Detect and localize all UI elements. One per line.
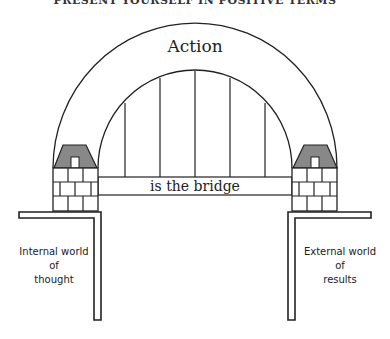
bridge-diagram: is the bridge Action [0, 0, 390, 339]
left-cap-window [71, 157, 79, 168]
arch-label: Action [166, 36, 222, 56]
bridge-label: is the bridge [150, 178, 240, 194]
left-pillar [53, 145, 98, 211]
arch-ribs [125, 71, 265, 177]
right-cap-window [311, 157, 319, 168]
right-label: External world of results [295, 245, 385, 287]
left-label: Internal world of thought [12, 245, 96, 287]
right-pillar [292, 145, 337, 211]
